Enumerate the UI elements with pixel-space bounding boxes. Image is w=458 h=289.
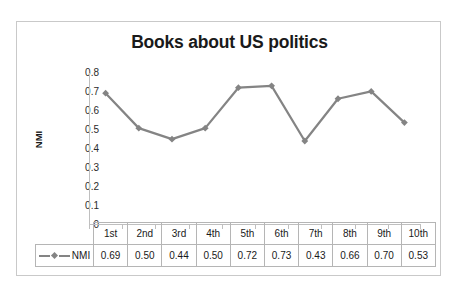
legend-label: NMI [72,250,90,261]
table-column-header: 6th [264,223,298,245]
table-column-header: 10th [401,223,435,245]
table-cell-value: 0.70 [367,245,401,267]
legend-diamond-icon [51,252,58,259]
legend-line-icon [59,255,70,257]
table-cell-value: 0.44 [162,245,196,267]
table-cell-value: 0.66 [333,245,367,267]
legend-entry: NMI [36,245,94,267]
plot-area [89,68,421,225]
chart-container: Books about US politics NMI 0.80.70.60.5… [16,21,441,276]
data-table: 1st2nd3rd4th5th6th7th8th9th10th NMI0.690… [35,222,436,267]
series-polyline [106,86,405,141]
table-cell-value: 0.50 [196,245,230,267]
chart-title: Books about US politics [17,32,442,53]
y-axis-title: NMI [33,110,44,170]
legend-line-icon [39,255,50,257]
table-cell-value: 0.73 [264,245,298,267]
table-column-header: 3rd [162,223,196,245]
table-column-header: 5th [230,223,264,245]
table-cell-value: 0.69 [94,245,128,267]
table-column-header: 2nd [128,223,162,245]
table-column-header: 8th [333,223,367,245]
table-legend-blank-cell [36,223,94,245]
table-cell-value: 0.53 [401,245,435,267]
table-column-header: 9th [367,223,401,245]
data-point-marker [169,136,176,143]
table-row: NMI0.690.500.440.500.720.730.430.660.700… [36,245,436,267]
table-cell-value: 0.50 [128,245,162,267]
table-cell-value: 0.72 [230,245,264,267]
table-column-header: 1st [94,223,128,245]
table-header-row: 1st2nd3rd4th5th6th7th8th9th10th [36,223,436,245]
table-cell-value: 0.43 [299,245,333,267]
table-column-header: 7th [299,223,333,245]
series-line-nmi [89,68,421,225]
table-column-header: 4th [196,223,230,245]
